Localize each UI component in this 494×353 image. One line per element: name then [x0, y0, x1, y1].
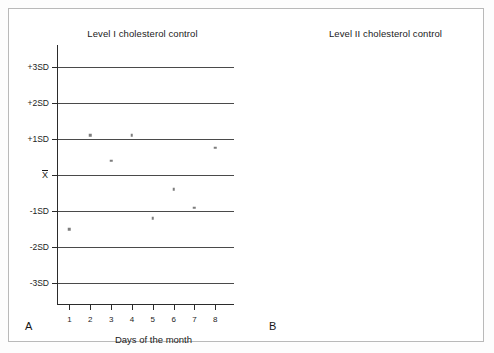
gridline [57, 247, 234, 248]
gridline [57, 103, 234, 104]
gridline [57, 211, 234, 212]
data-point [152, 217, 155, 220]
panel-b-letter: B [269, 320, 276, 332]
x-axis-tick [153, 305, 154, 310]
y-axis-label: +3SD [28, 62, 50, 72]
x-axis-tick [111, 305, 112, 310]
data-point [89, 134, 92, 137]
x-axis-tick [90, 305, 91, 310]
gridline [57, 175, 234, 176]
panel-a-letter: A [25, 320, 32, 332]
data-point [131, 134, 134, 137]
x-axis-label: 7 [192, 315, 196, 324]
panel-b: Level II cholesterol control Days of the… [256, 9, 494, 341]
y-axis-tick [52, 247, 58, 248]
y-axis-tick [52, 175, 58, 176]
x-axis-label: 4 [130, 315, 134, 324]
gridline [57, 139, 234, 140]
y-axis-tick [52, 139, 58, 140]
x-axis-label: 1 [67, 315, 71, 324]
panel-a-title: Level I cholesterol control [19, 28, 266, 39]
y-axis-label: -3SD [30, 278, 49, 288]
x-axis-label: 6 [171, 315, 175, 324]
panel-a-x-axis [57, 304, 234, 305]
x-axis-tick [215, 305, 216, 310]
y-axis-label: +1SD [28, 134, 50, 144]
data-point [193, 206, 196, 209]
figure-frame: Level I cholesterol control Days of the … [8, 8, 484, 342]
panel-a: Level I cholesterol control Days of the … [9, 9, 256, 341]
y-axis-tick [52, 103, 58, 104]
gridline [57, 283, 234, 284]
data-point [110, 159, 113, 162]
y-axis-tick [52, 283, 58, 284]
figure-page: Level I cholesterol control Days of the … [0, 0, 494, 353]
panel-b-title: Level II cholesterol control [262, 28, 494, 39]
y-axis-label: -1SD [30, 206, 49, 216]
y-axis-label: -2SD [30, 242, 49, 252]
x-axis-tick [194, 305, 195, 310]
y-axis-tick [52, 211, 58, 212]
y-axis-tick [52, 67, 58, 68]
x-axis-label: 2 [88, 315, 92, 324]
panel-a-x-axis-title: Days of the month [65, 334, 242, 345]
x-axis-tick [132, 305, 133, 310]
x-axis-tick [69, 305, 70, 310]
data-point [214, 147, 217, 150]
x-axis-label: 5 [151, 315, 155, 324]
gridline [57, 67, 234, 68]
data-point [68, 228, 71, 231]
x-axis-label: 3 [109, 315, 113, 324]
data-point [172, 188, 175, 191]
panel-a-plot-area: Days of the month +3SD+2SD+1SDX-1SD-2SD-… [57, 45, 234, 305]
x-axis-label: 8 [213, 315, 217, 324]
y-axis-label-mean: X [42, 170, 48, 180]
y-axis-label: +2SD [28, 98, 50, 108]
x-axis-tick [174, 305, 175, 310]
